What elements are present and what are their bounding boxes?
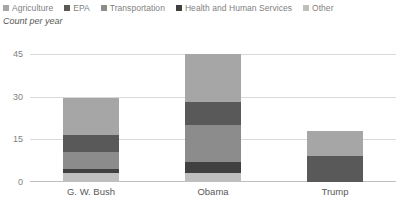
- bar-stack-trump[interactable]: [307, 131, 363, 182]
- chart-legend: Agriculture EPA Transportation Health an…: [0, 0, 400, 15]
- legend-swatch-health-and-human-services: [176, 5, 182, 11]
- legend-item-agriculture[interactable]: Agriculture: [3, 3, 53, 13]
- x-label-trump: Trump: [274, 186, 396, 198]
- bar-segment[interactable]: [63, 135, 119, 152]
- bar-segment[interactable]: [63, 173, 119, 182]
- x-axis-labels: G. W. Bush Obama Trump: [30, 186, 396, 198]
- bar-group-trump: [274, 54, 396, 182]
- legend-item-health-and-human-services[interactable]: Health and Human Services: [176, 3, 292, 13]
- legend-label-health-and-human-services: Health and Human Services: [185, 3, 292, 13]
- legend-swatch-agriculture: [3, 5, 9, 11]
- legend-label-transportation: Transportation: [110, 3, 165, 13]
- bar-group-g-w-bush: [30, 54, 152, 182]
- x-label-obama: Obama: [152, 186, 274, 198]
- bar-segment[interactable]: [185, 162, 241, 173]
- stacked-bar-chart: Agriculture EPA Transportation Health an…: [0, 0, 400, 205]
- legend-item-other[interactable]: Other: [303, 3, 334, 13]
- plot-area: 45 30 15 0: [30, 54, 396, 182]
- bar-series-container: [30, 54, 396, 182]
- bar-segment[interactable]: [185, 125, 241, 162]
- y-tick-label-30: 30: [0, 93, 23, 102]
- legend-label-other: Other: [312, 3, 334, 13]
- bar-segment[interactable]: [307, 156, 363, 182]
- x-label-g-w-bush: G. W. Bush: [30, 186, 152, 198]
- y-tick-label-0: 0: [0, 178, 23, 187]
- bar-segment[interactable]: [63, 98, 119, 135]
- legend-swatch-other: [303, 5, 309, 11]
- bar-segment[interactable]: [185, 173, 241, 182]
- legend-label-agriculture: Agriculture: [12, 3, 53, 13]
- bar-segment[interactable]: [185, 102, 241, 125]
- legend-item-epa[interactable]: EPA: [64, 3, 90, 13]
- bar-segment[interactable]: [63, 152, 119, 169]
- bar-group-obama: [152, 54, 274, 182]
- bar-segment[interactable]: [185, 54, 241, 102]
- y-tick-label-15: 15: [0, 135, 23, 144]
- legend-swatch-epa: [64, 5, 70, 11]
- bar-stack-g-w-bush[interactable]: [63, 98, 119, 182]
- legend-label-epa: EPA: [73, 3, 90, 13]
- y-tick-label-45: 45: [0, 50, 23, 59]
- bar-stack-obama[interactable]: [185, 54, 241, 182]
- legend-item-transportation[interactable]: Transportation: [101, 3, 165, 13]
- bar-segment[interactable]: [307, 131, 363, 157]
- legend-swatch-transportation: [101, 5, 107, 11]
- y-axis-title: Count per year: [3, 15, 63, 27]
